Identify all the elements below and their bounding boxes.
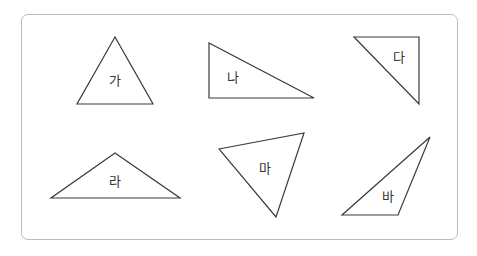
triangle-da: 다: [354, 37, 419, 104]
triangles-canvas: 가 나 다 라 마 바: [0, 0, 477, 256]
triangle-label: 마: [259, 161, 271, 176]
triangle-label: 가: [109, 73, 121, 88]
triangle-shape: [77, 37, 153, 104]
triangle-label: 다: [393, 50, 405, 65]
triangle-ba: 바: [342, 137, 430, 215]
triangle-label: 나: [227, 70, 239, 85]
triangle-shape: [354, 37, 419, 104]
triangle-shape: [209, 43, 314, 98]
triangle-ma: 마: [219, 133, 304, 217]
triangle-label: 라: [109, 174, 121, 189]
triangle-ga: 가: [77, 37, 153, 104]
triangle-ra: 라: [51, 153, 180, 198]
triangle-label: 바: [382, 189, 394, 204]
triangle-na: 나: [209, 43, 314, 98]
